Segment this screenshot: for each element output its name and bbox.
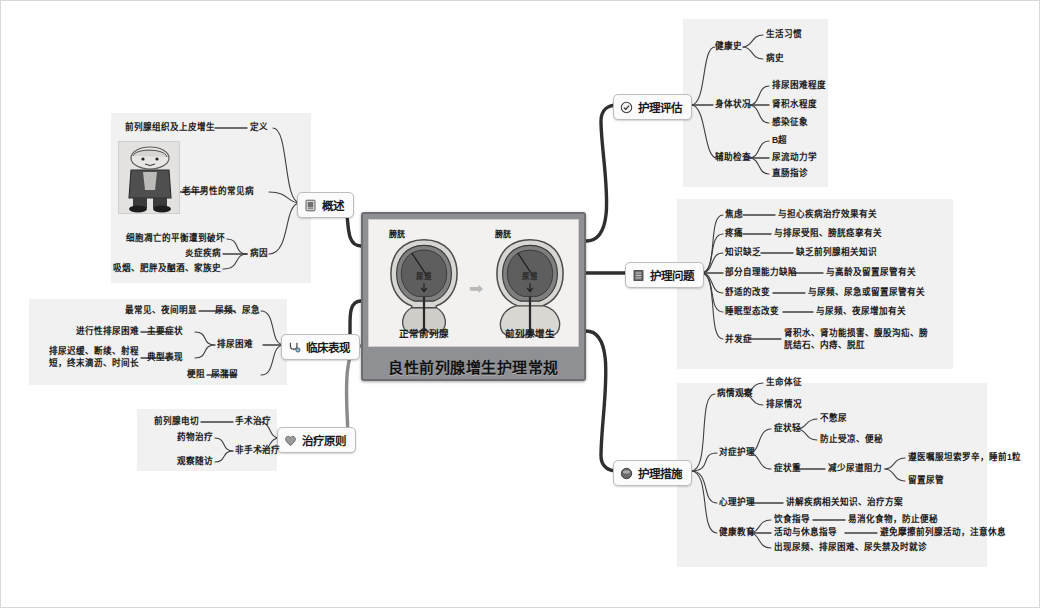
measure-voiding-status: 排尿情况 (766, 399, 802, 410)
leaf-past-history: 病史 (766, 53, 784, 64)
leaf-main-symptom: 主要症状 (147, 326, 183, 337)
problem-4: 部分自理能力缺陷 (725, 267, 797, 278)
problem-2-detail: 与排尿受阻、膀胱痉挛有关 (774, 228, 882, 239)
leaf-drug-therapy: 药物治疗 (157, 432, 213, 443)
branch-label-gaishu: 概述 (322, 197, 344, 213)
leaf-cause-1: 细胞凋亡的平衡遭到破坏 (113, 233, 225, 244)
check-circle-icon (620, 101, 633, 114)
hyperplastic-prostate-diagram: 膀胱 尿道 前列腺增生 (487, 226, 573, 346)
elderly-man-illustration (118, 141, 180, 214)
measure-reduce-resistance: 减少尿道阻力 (828, 463, 882, 474)
leaf-cause: 病因 (250, 248, 268, 259)
leaf-infection-signs: 感染征象 (772, 117, 808, 128)
leaf-lifestyle: 生活习惯 (766, 29, 802, 40)
branch-node-linchuang[interactable]: 临床表现 (281, 334, 360, 360)
leaf-hydronephrosis-level: 肾积水程度 (772, 99, 817, 110)
problem-7: 并发症 (725, 334, 752, 345)
measure-vital-signs: 生命体征 (766, 377, 802, 388)
leaf-obstruction: 梗阻 (161, 369, 205, 380)
leaf-health-history: 健康史 (715, 41, 742, 52)
leaf-turp: 前列腺电切 (143, 416, 199, 427)
branch-node-cuoshi[interactable]: 护理措施 (613, 460, 692, 486)
leaf-observation: 观察随访 (157, 456, 213, 467)
problem-3-detail: 缺乏前列腺相关知识 (796, 247, 877, 258)
measure-no-holding: 不憋尿 (820, 413, 847, 424)
branch-label-cuoshi: 护理措施 (638, 465, 682, 481)
normal-prostate-caption: 正常前列腺 (381, 326, 467, 340)
book-icon (304, 199, 317, 212)
branch-label-pinggu: 护理评估 (638, 99, 682, 115)
leaf-urodynamics: 尿流动力学 (772, 152, 817, 163)
root-title: 良性前列腺增生护理常规 (363, 356, 584, 377)
leaf-cause-2: 炎症疾病 (143, 248, 221, 259)
education-diet-detail: 易消化食物，防止便秘 (848, 514, 938, 525)
branch-label-wenti: 护理问题 (650, 267, 694, 283)
education-diet: 饮食指导 (774, 514, 810, 525)
branch-node-gaishu[interactable]: 概述 (297, 192, 354, 218)
pill-icon (620, 467, 633, 480)
leaf-nonsurgery: 非手术治疗 (235, 445, 280, 456)
measure-psychological: 心理护理 (719, 497, 755, 508)
problem-6: 睡眠型态改变 (725, 306, 779, 317)
measure-education: 健康教育 (719, 527, 755, 538)
leaf-difficulty: 排尿困难 (217, 339, 253, 350)
root-node[interactable]: 膀胱 尿道 正常前列腺 ➡ 膀胱 (361, 212, 586, 381)
leaf-typical: 典型表现 (147, 352, 183, 363)
leaf-auxiliary-exam: 辅助检查 (715, 152, 751, 163)
problem-6-detail: 与尿频、夜尿增加有关 (816, 306, 906, 317)
hyperplastic-prostate-caption: 前列腺增生 (487, 326, 573, 340)
leaf-frequency-detail: 最常见、夜间明显 (99, 305, 197, 316)
measure-psychological-detail: 讲解疾病相关知识、治疗方案 (786, 497, 903, 508)
svg-text:尿道: 尿道 (416, 271, 432, 281)
leaf-cause-3: 吸烟、肥胖及酗酒、家族史 (109, 263, 221, 274)
problem-3: 知识缺乏 (725, 247, 761, 258)
problem-1: 焦虑 (725, 209, 743, 220)
problem-5-detail: 与尿频、尿急或留置尿管有关 (808, 287, 925, 298)
leaf-retention: 尿潴留 (211, 369, 238, 380)
stethoscope-icon (288, 341, 301, 354)
leaf-voiding-difficulty-level: 排尿困难程度 (772, 80, 826, 91)
leaf-common-disease: 老年男性的常见病 (182, 186, 254, 197)
leaf-main-symptom-detail: 进行性排尿困难 (43, 326, 139, 337)
education-activity: 活动与休息指导 (774, 527, 837, 538)
leaf-typical-detail: 排尿迟缓、断续、射程短，终末滴沥、时间长 (33, 345, 139, 369)
measure-observation: 病情观察 (717, 388, 753, 399)
problem-1-detail: 与担心疾病治疗效果有关 (778, 209, 877, 220)
branch-label-zhiliao: 治疗原则 (302, 432, 346, 448)
measure-tamsulosin: 遵医嘱服坦索罗辛，睡前1粒 (908, 452, 1021, 463)
mindmap-canvas: 膀胱 尿道 正常前列腺 ➡ 膀胱 (0, 0, 1040, 608)
leaf-surgery: 手术治疗 (235, 416, 271, 427)
leaf-physical-status: 身体状况 (715, 99, 751, 110)
branch-node-pinggu[interactable]: 护理评估 (613, 94, 692, 120)
branch-label-linchuang: 临床表现 (306, 339, 350, 355)
transform-arrow-icon: ➡ (469, 278, 483, 299)
measure-symptomatic: 对症护理 (719, 447, 755, 458)
normal-prostate-diagram: 膀胱 尿道 正常前列腺 (381, 226, 467, 346)
measure-severe: 症状重 (774, 463, 801, 474)
problem-4-detail: 与高龄及留置尿管有关 (826, 267, 916, 278)
leaf-frequency: 尿频、尿急 (215, 305, 260, 316)
problem-5: 舒适的改变 (725, 287, 770, 298)
leaf-ultrasound: B超 (772, 135, 787, 146)
measure-mild: 症状轻 (774, 423, 801, 434)
measure-avoid-cold: 防止受凉、便秘 (820, 434, 883, 445)
education-activity-detail: 避免摩擦前列腺活动，注意休息 (880, 527, 1006, 538)
leaf-definition-detail: 前列腺组织及上皮增生 (117, 122, 215, 133)
branch-node-wenti[interactable]: 护理问题 (625, 262, 704, 288)
branch-node-zhiliao[interactable]: 治疗原则 (277, 427, 356, 453)
problem-2: 疼痛 (725, 228, 743, 239)
measure-catheter: 留置尿管 (908, 475, 944, 486)
leaf-definition: 定义 (250, 122, 268, 133)
problem-7-detail: 肾积水、肾功能损害、腹股沟疝、膀胱结石、内痔、脱肛 (784, 327, 936, 351)
education-seek-care: 出现尿频、排尿困难、尿失禁及时就诊 (774, 542, 927, 553)
list-icon (632, 269, 645, 282)
svg-text:尿道: 尿道 (522, 271, 538, 281)
leaf-dre: 直肠指诊 (772, 168, 808, 179)
prostate-illustration: 膀胱 尿道 正常前列腺 ➡ 膀胱 (368, 219, 579, 347)
heart-icon (284, 434, 297, 447)
